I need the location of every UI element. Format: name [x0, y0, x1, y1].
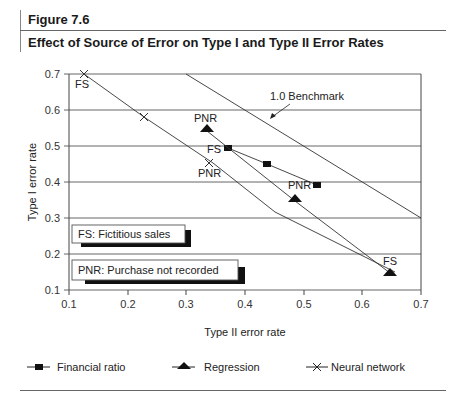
gridlines — [64, 74, 421, 290]
svg-text:0.4: 0.4 — [45, 176, 60, 188]
svg-text:PNR: PNR — [288, 179, 311, 191]
y-tick-labels: 0.7 0.6 0.5 0.4 0.3 0.2 0.1 — [45, 68, 60, 296]
svg-text:0.5: 0.5 — [296, 298, 311, 310]
chart: 0.7 0.6 0.5 0.4 0.3 0.2 0.1 0.1 0.2 0.3 … — [0, 0, 456, 407]
legend-item-regression: Regression — [172, 361, 260, 373]
y-axis-label: Type I error rate — [26, 143, 38, 221]
triangle-icon — [177, 362, 191, 369]
square-icon — [35, 364, 43, 370]
svg-text:0.4: 0.4 — [237, 298, 252, 310]
svg-text:Regression: Regression — [204, 361, 260, 373]
svg-text:0.3: 0.3 — [45, 212, 60, 224]
svg-text:0.1: 0.1 — [61, 298, 76, 310]
svg-text:FS: Fictitious sales: FS: Fictitious sales — [78, 228, 171, 240]
x-tick-labels: 0.1 0.2 0.3 0.4 0.5 0.6 0.7 — [61, 298, 428, 310]
svg-text:0.6: 0.6 — [354, 298, 369, 310]
svg-text:0.7: 0.7 — [45, 68, 60, 80]
svg-text:Financial ratio: Financial ratio — [57, 361, 125, 373]
bottom-divider — [20, 390, 446, 391]
legend: Financial ratio Regression Neural networ… — [27, 361, 405, 373]
svg-text:0.2: 0.2 — [45, 248, 60, 260]
triangle-marker — [200, 124, 214, 132]
x-axis-label: Type II error rate — [204, 326, 285, 338]
svg-text:PNR: Purchase not recorded: PNR: Purchase not recorded — [78, 264, 219, 276]
svg-text:FS: FS — [75, 78, 89, 90]
svg-text:FS: FS — [383, 255, 397, 267]
svg-text:0.2: 0.2 — [120, 298, 135, 310]
fs-key-box: FS: Fictitious sales — [72, 225, 191, 247]
legend-item-financial-ratio: Financial ratio — [27, 361, 125, 373]
benchmark-label: 1.0 Benchmark — [270, 90, 344, 102]
pnr-key-box: PNR: Purchase not recorded — [72, 260, 245, 284]
benchmark-arrowhead — [270, 113, 276, 119]
legend-item-neural-network: Neural network — [306, 361, 405, 373]
square-marker — [313, 182, 321, 188]
svg-text:0.1: 0.1 — [45, 284, 60, 296]
svg-text:0.6: 0.6 — [45, 104, 60, 116]
square-marker — [263, 161, 271, 167]
svg-text:PNR: PNR — [194, 112, 217, 124]
svg-text:PNR: PNR — [198, 167, 221, 179]
svg-text:Neural network: Neural network — [331, 361, 405, 373]
svg-text:0.5: 0.5 — [45, 140, 60, 152]
svg-text:0.7: 0.7 — [413, 298, 428, 310]
svg-text:FS: FS — [207, 143, 221, 155]
svg-text:0.3: 0.3 — [178, 298, 193, 310]
triangle-marker — [288, 194, 302, 202]
